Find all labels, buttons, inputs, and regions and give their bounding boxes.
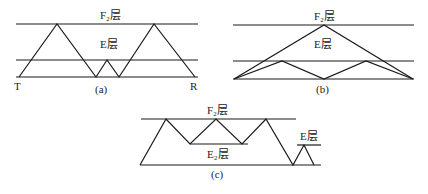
e2-layer-label-c: E₂层 bbox=[207, 148, 229, 160]
caption-b: (b) bbox=[316, 83, 329, 96]
ray-path-b-high bbox=[234, 25, 413, 79]
panel-a: F₂层 E层 T R (a) bbox=[14, 9, 198, 96]
panel-b: F₂层 E层 (b) bbox=[233, 10, 414, 96]
receiver-label: R bbox=[190, 80, 198, 92]
f2-layer-label-a: F₂层 bbox=[100, 9, 121, 21]
e-layer-label-b: E层 bbox=[314, 38, 332, 50]
transmitter-label: T bbox=[14, 80, 21, 92]
f2-layer-label-c: F₂层 bbox=[207, 104, 228, 116]
ray-path-b-low bbox=[234, 61, 413, 79]
caption-c: (c) bbox=[211, 168, 224, 181]
ray-path-a bbox=[19, 24, 195, 77]
caption-a: (a) bbox=[95, 83, 108, 96]
ionosphere-propagation-diagram: F₂层 E层 T R (a) F₂层 E层 (b) F₂层 E₂层 E层 (c) bbox=[0, 0, 428, 194]
e-layer-label-a: E层 bbox=[100, 38, 118, 50]
f2-layer-label-b: F₂层 bbox=[314, 10, 335, 22]
panel-c: F₂层 E₂层 E层 (c) bbox=[140, 104, 321, 181]
e-layer-label-c: E层 bbox=[300, 130, 318, 142]
